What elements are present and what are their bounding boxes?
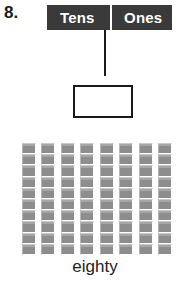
unit-cube — [22, 143, 36, 154]
unit-cube — [80, 210, 94, 221]
unit-cube — [41, 244, 55, 255]
unit-cube — [41, 199, 55, 210]
unit-cube — [61, 199, 75, 210]
unit-cube — [119, 244, 133, 255]
unit-cube — [100, 244, 114, 255]
unit-cube — [139, 165, 153, 176]
unit-cube — [41, 154, 55, 165]
unit-cube — [80, 199, 94, 210]
unit-cube — [22, 210, 36, 221]
unit-cube — [119, 165, 133, 176]
unit-cube — [158, 233, 172, 244]
base-ten-rod — [100, 143, 114, 255]
unit-cube — [61, 233, 75, 244]
unit-cube — [22, 244, 36, 255]
unit-cube — [41, 221, 55, 232]
unit-cube — [139, 143, 153, 154]
unit-cube — [158, 188, 172, 199]
unit-cube — [100, 143, 114, 154]
number-word-label: eighty — [0, 258, 190, 277]
unit-cube — [139, 188, 153, 199]
unit-cube — [41, 188, 55, 199]
unit-cube — [139, 177, 153, 188]
unit-cube — [80, 143, 94, 154]
base-ten-rod — [80, 143, 94, 255]
unit-cube — [22, 233, 36, 244]
unit-cube — [139, 221, 153, 232]
unit-cube — [100, 221, 114, 232]
unit-cube — [119, 210, 133, 221]
answer-box[interactable] — [73, 85, 133, 118]
unit-cube — [61, 177, 75, 188]
base-ten-rod-group — [22, 143, 172, 255]
unit-cube — [100, 199, 114, 210]
unit-cube — [139, 199, 153, 210]
unit-cube — [61, 188, 75, 199]
unit-cube — [41, 143, 55, 154]
problem-number: 8. — [4, 4, 18, 21]
unit-cube — [41, 210, 55, 221]
unit-cube — [139, 210, 153, 221]
unit-cube — [119, 221, 133, 232]
unit-cube — [158, 210, 172, 221]
unit-cube — [119, 154, 133, 165]
place-value-header-tens: Tens — [47, 5, 110, 30]
unit-cube — [22, 165, 36, 176]
unit-cube — [100, 177, 114, 188]
unit-cube — [22, 154, 36, 165]
unit-cube — [119, 199, 133, 210]
unit-cube — [119, 143, 133, 154]
unit-cube — [100, 188, 114, 199]
unit-cube — [61, 154, 75, 165]
unit-cube — [158, 143, 172, 154]
base-ten-rod — [22, 143, 36, 255]
unit-cube — [61, 143, 75, 154]
unit-cube — [119, 188, 133, 199]
unit-cube — [41, 177, 55, 188]
unit-cube — [158, 199, 172, 210]
place-value-header-ones: Ones — [110, 5, 173, 30]
base-ten-rod — [119, 143, 133, 255]
unit-cube — [22, 221, 36, 232]
place-value-worksheet-problem: 8. Tens Ones eighty — [0, 0, 190, 294]
place-value-header: Tens Ones — [47, 5, 172, 30]
unit-cube — [100, 233, 114, 244]
unit-cube — [158, 244, 172, 255]
unit-cube — [80, 233, 94, 244]
base-ten-rod — [41, 143, 55, 255]
unit-cube — [158, 221, 172, 232]
unit-cube — [80, 221, 94, 232]
unit-cube — [119, 233, 133, 244]
base-ten-rod — [61, 143, 75, 255]
unit-cube — [158, 165, 172, 176]
unit-cube — [158, 177, 172, 188]
unit-cube — [22, 188, 36, 199]
unit-cube — [119, 177, 133, 188]
unit-cube — [80, 154, 94, 165]
unit-cube — [61, 221, 75, 232]
unit-cube — [22, 199, 36, 210]
unit-cube — [22, 177, 36, 188]
connector-line — [104, 30, 106, 76]
base-ten-rod — [158, 143, 172, 255]
unit-cube — [61, 244, 75, 255]
unit-cube — [61, 210, 75, 221]
unit-cube — [80, 165, 94, 176]
unit-cube — [41, 233, 55, 244]
unit-cube — [100, 210, 114, 221]
unit-cube — [80, 177, 94, 188]
unit-cube — [61, 165, 75, 176]
unit-cube — [100, 154, 114, 165]
unit-cube — [139, 233, 153, 244]
unit-cube — [139, 154, 153, 165]
unit-cube — [158, 154, 172, 165]
base-ten-rod — [139, 143, 153, 255]
unit-cube — [80, 244, 94, 255]
unit-cube — [41, 165, 55, 176]
unit-cube — [100, 165, 114, 176]
unit-cube — [80, 188, 94, 199]
unit-cube — [139, 244, 153, 255]
